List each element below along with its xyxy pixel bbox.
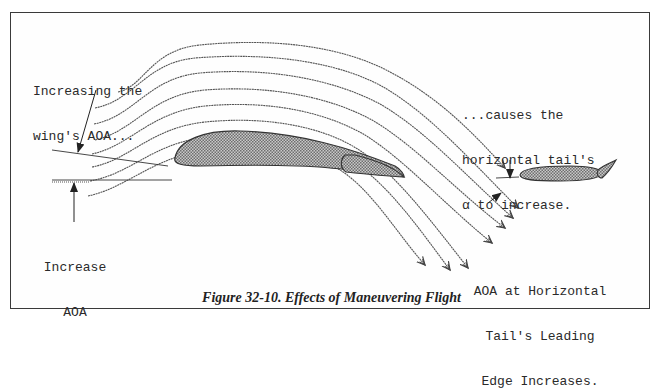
wing-aoa-annotation: Increasing the wing's AOA... xyxy=(33,54,142,159)
increase-aoa-line1: Increase xyxy=(40,260,110,275)
wing-aoa-line1: Increasing the xyxy=(33,84,142,99)
tail-leading-edge-annotation: AOA at Horizontal Tail's Leading Edge In… xyxy=(470,254,610,392)
figure-caption: Figure 32-10. Effects of Maneuvering Fli… xyxy=(0,290,663,306)
increase-aoa-line2: AOA xyxy=(40,305,110,320)
tail-leading-edge-line2: Tail's Leading xyxy=(470,329,610,344)
increase-aoa-annotation: Increase AOA xyxy=(40,230,110,335)
elevator xyxy=(597,160,616,178)
tail-alpha-line1: ...causes the xyxy=(462,108,595,123)
tail-alpha-line2: horizontal tail's xyxy=(462,153,595,168)
tail-alpha-line3: α to increase. xyxy=(462,198,595,213)
wing-aoa-line2: wing's AOA... xyxy=(33,129,142,144)
tail-alpha-annotation: ...causes the horizontal tail's α to inc… xyxy=(462,78,595,228)
tail-leading-edge-line3: Edge Increases. xyxy=(470,374,610,389)
